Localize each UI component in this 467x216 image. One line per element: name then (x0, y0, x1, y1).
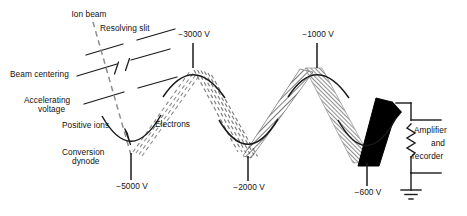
conversion-dynode-voltage: −5000 V (94, 182, 170, 192)
electron-beam-5 (358, 98, 402, 166)
conversion-dynode-label-line2: dynode (72, 157, 100, 167)
figure-canvas: Ion beam Resolving slit Beam centering A… (0, 0, 467, 216)
electron-beam-3 (243, 69, 313, 158)
positive-ions-label: Positive ions (62, 121, 109, 131)
electron-beam-4 (305, 68, 372, 163)
ion-optics-plates (77, 29, 177, 104)
dynode-2-voltage: −2000 V (211, 183, 287, 193)
beam-centering-label: Beam centering (10, 70, 69, 80)
ion-beam-path (93, 22, 132, 155)
dynode-1-voltage: −3000 V (156, 30, 232, 40)
electrons-label: Electrons (155, 120, 190, 130)
electron-beam-1 (133, 71, 200, 156)
dynode-4-voltage: −600 V (330, 188, 406, 198)
amplifier-label-line2: and (414, 139, 462, 149)
dynode-3-voltage: −1000 V (280, 30, 356, 40)
accelerating-voltage-label-line2: voltage (38, 105, 65, 115)
ion-beam-label: Ion beam (54, 10, 124, 20)
amplifier-label-line1: Amplifier (414, 126, 447, 136)
resolving-slit-label: Resolving slit (100, 24, 150, 34)
conversion-dynode (102, 115, 161, 180)
amplifier-label-line3: recorder (412, 152, 443, 162)
